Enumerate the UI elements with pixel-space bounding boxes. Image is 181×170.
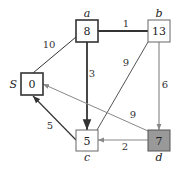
edge-weight-label: 10	[43, 39, 56, 50]
node-distance-value: 5	[84, 135, 91, 148]
edge-weight-label: 2	[122, 141, 128, 152]
node-c: 5c	[76, 130, 98, 164]
edge-line	[43, 84, 148, 131]
edge-S-a: 10	[33, 37, 76, 73]
node-name-label: a	[84, 7, 91, 20]
node-S: 0S	[9, 73, 43, 95]
edge-line	[33, 96, 76, 140]
edge-weight-label: 6	[162, 79, 168, 90]
node-name-label: S	[9, 78, 17, 91]
node-distance-value: 7	[156, 135, 163, 148]
node-b: 13b	[148, 7, 170, 42]
node-name-label: d	[155, 151, 162, 164]
node-name-label: b	[155, 7, 162, 20]
node-distance-value: 0	[29, 78, 36, 91]
graph-diagram: 101396952 0S8a13b5c7d	[0, 0, 181, 170]
node-distance-value: 13	[152, 25, 166, 38]
edge-c-S: 5	[33, 96, 76, 140]
edge-a-b: 1	[98, 18, 148, 31]
edge-weight-label: 5	[47, 120, 53, 131]
node-d: 7d	[148, 130, 170, 164]
edge-weight-label: 1	[123, 18, 129, 29]
edge-weight-label: 9	[130, 109, 136, 120]
edge-a-c: 3	[87, 42, 95, 130]
edge-weight-label: 3	[89, 68, 95, 79]
edge-line	[97, 42, 148, 130]
edge-d-S: 9	[43, 84, 148, 131]
edge-b-c: 9	[97, 42, 148, 130]
edge-d-c: 2	[98, 140, 148, 152]
edge-weight-label: 9	[123, 57, 129, 68]
node-name-label: c	[84, 151, 90, 164]
node-a: 8a	[76, 7, 98, 42]
node-distance-value: 8	[84, 25, 91, 38]
edge-b-d: 6	[159, 42, 168, 130]
